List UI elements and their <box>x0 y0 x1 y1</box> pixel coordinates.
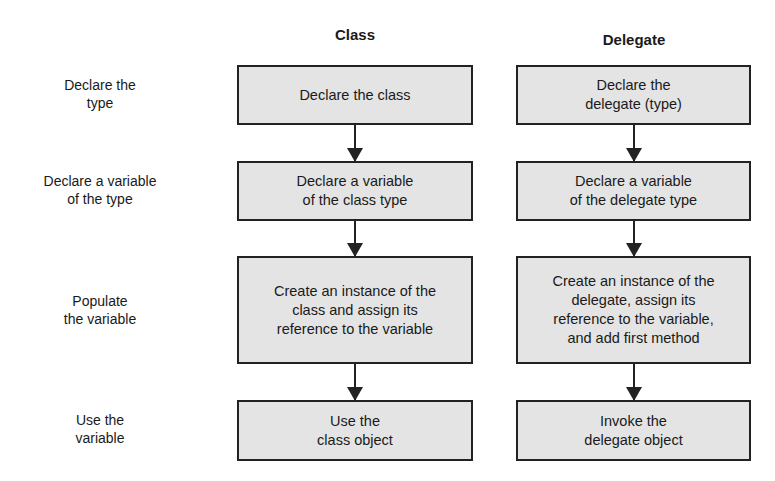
delegate-box-text: Declare a variable of the delegate type <box>570 172 697 210</box>
delegate-box-declare: Declare the delegate (type) <box>516 65 751 125</box>
delegate-box-variable: Declare a variable of the delegate type <box>516 161 751 221</box>
arrow-down-icon <box>633 221 635 256</box>
header-class: Class <box>237 26 473 43</box>
delegate-box-use: Invoke the delegate object <box>516 400 751 461</box>
arrow-down-icon <box>354 221 356 256</box>
row-label-populate: Populate the variable <box>0 292 200 328</box>
class-box-declare: Declare the class <box>237 65 473 125</box>
delegate-box-text: Create an instance of the delegate, assi… <box>552 272 714 348</box>
arrow-down-icon <box>633 125 635 161</box>
class-box-text: Use the class object <box>317 412 393 450</box>
class-box-text: Declare a variable of the class type <box>297 172 414 210</box>
arrow-down-icon <box>633 364 635 400</box>
class-box-text: Declare the class <box>299 86 410 105</box>
row-label-declare-type: Declare the type <box>0 76 200 112</box>
row-label-declare-variable: Declare a variable of the type <box>0 172 200 208</box>
class-box-use: Use the class object <box>237 400 473 461</box>
delegate-box-text: Invoke the delegate object <box>584 412 682 450</box>
delegate-box-text: Declare the delegate (type) <box>585 76 682 114</box>
arrow-down-icon <box>354 125 356 161</box>
delegate-box-populate: Create an instance of the delegate, assi… <box>516 256 751 364</box>
header-delegate: Delegate <box>516 31 752 48</box>
class-box-populate: Create an instance of the class and assi… <box>237 256 473 364</box>
class-box-text: Create an instance of the class and assi… <box>274 282 436 339</box>
class-box-variable: Declare a variable of the class type <box>237 161 473 221</box>
row-label-use: Use the variable <box>0 411 200 447</box>
arrow-down-icon <box>354 364 356 400</box>
